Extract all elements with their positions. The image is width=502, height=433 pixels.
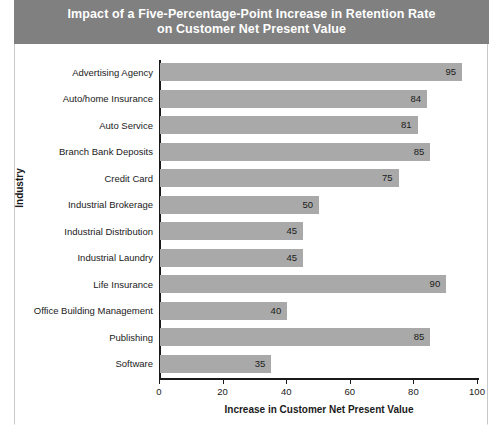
bar-value-label: 45 (287, 253, 298, 263)
x-axis-title: Increase in Customer Net Present Value (159, 404, 479, 415)
bar-row: Industrial Brokerage50 (160, 193, 478, 220)
category-label: Industrial Distribution (64, 222, 153, 240)
category-label: Advertising Agency (72, 63, 153, 81)
category-label: Software (116, 355, 154, 373)
y-axis-title: Industry (14, 148, 25, 228)
bar: 40 (160, 302, 287, 320)
x-tick-mark (350, 378, 351, 384)
x-tick-label: 0 (139, 386, 179, 397)
bar-value-label: 90 (430, 279, 441, 289)
bar-row: Branch Bank Deposits85 (160, 140, 478, 167)
bar-row: Credit Card75 (160, 166, 478, 193)
chart-figure: Impact of a Five-Percentage-Point Increa… (0, 0, 502, 433)
bar-row: Auto/home Insurance84 (160, 87, 478, 114)
bar-value-label: 40 (271, 306, 282, 316)
bar: 95 (160, 63, 462, 81)
category-label: Branch Bank Deposits (59, 143, 153, 161)
x-tick-mark (159, 378, 160, 384)
bar-row: Publishing85 (160, 325, 478, 352)
bar-row: Industrial Laundry45 (160, 246, 478, 273)
x-tick-label: 60 (330, 386, 370, 397)
bar-value-label: 81 (401, 120, 412, 130)
x-axis-line (159, 378, 479, 380)
bar-row: Office Building Management40 (160, 299, 478, 326)
bar-value-label: 84 (411, 94, 422, 104)
bar: 85 (160, 328, 430, 346)
bar: 35 (160, 355, 271, 373)
bar-row: Life Insurance90 (160, 272, 478, 299)
chart-title-banner: Impact of a Five-Percentage-Point Increa… (14, 0, 489, 44)
bar: 75 (160, 169, 399, 187)
bar-value-label: 45 (287, 226, 298, 236)
category-label: Auto Service (99, 116, 153, 134)
plot-area: Advertising Agency95Auto/home Insurance8… (160, 60, 478, 378)
x-tick-label: 100 (457, 386, 497, 397)
category-label: Publishing (109, 328, 153, 346)
x-tick-mark (286, 378, 287, 384)
category-label: Office Building Management (34, 302, 153, 320)
category-label: Life Insurance (93, 275, 153, 293)
bar: 45 (160, 222, 303, 240)
x-tick-mark (477, 378, 478, 384)
bar-value-label: 75 (382, 173, 393, 183)
x-tick-mark (223, 378, 224, 384)
bar: 90 (160, 275, 446, 293)
bar: 50 (160, 196, 319, 214)
category-label: Credit Card (104, 169, 153, 187)
bar: 85 (160, 143, 430, 161)
x-tick-label: 20 (203, 386, 243, 397)
bar-value-label: 85 (414, 332, 425, 342)
bar: 45 (160, 249, 303, 267)
category-label: Industrial Laundry (77, 249, 153, 267)
bar-row: Auto Service81 (160, 113, 478, 140)
category-label: Auto/home Insurance (63, 90, 153, 108)
bar-value-label: 85 (414, 147, 425, 157)
x-tick-label: 80 (393, 386, 433, 397)
bar: 84 (160, 90, 427, 108)
bar-row: Software35 (160, 352, 478, 379)
bar: 81 (160, 116, 418, 134)
category-label: Industrial Brokerage (68, 196, 153, 214)
bar-row: Industrial Distribution45 (160, 219, 478, 246)
x-tick-label: 40 (266, 386, 306, 397)
x-tick-mark (413, 378, 414, 384)
bar-row: Advertising Agency95 (160, 60, 478, 87)
chart-title: Impact of a Five-Percentage-Point Increa… (68, 7, 436, 37)
bar-value-label: 95 (446, 67, 457, 77)
bar-value-label: 35 (255, 359, 266, 369)
bar-value-label: 50 (302, 200, 313, 210)
